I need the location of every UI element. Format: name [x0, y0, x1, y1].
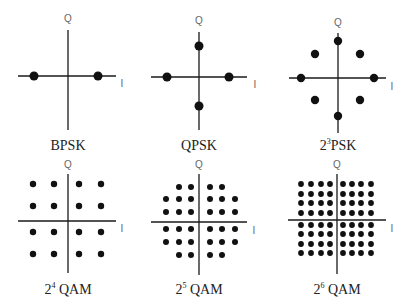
- i-axis-label: I: [121, 223, 124, 234]
- symbol-point: [76, 251, 82, 257]
- symbol-point: [219, 252, 225, 258]
- symbol-point: [176, 226, 182, 232]
- symbol-point: [368, 210, 374, 216]
- symbol-point: [308, 210, 314, 216]
- symbol-point: [188, 226, 194, 232]
- symbol-point: [308, 231, 314, 237]
- symbol-point: [76, 181, 82, 187]
- symbol-point: [327, 210, 333, 216]
- symbol-point: [232, 196, 238, 202]
- symbol-point: [30, 251, 36, 257]
- symbol-point: [176, 196, 182, 202]
- symbol-point: [349, 222, 355, 228]
- symbol-point: [349, 210, 355, 216]
- constellation-caption: QPSK: [181, 138, 217, 153]
- symbol-point: [308, 191, 314, 197]
- symbol-point: [51, 251, 57, 257]
- symbol-point: [368, 222, 374, 228]
- symbol-point: [232, 226, 238, 232]
- constellation-qpsk: QIQPSK: [151, 15, 256, 153]
- constellation-2-qam: QI26 QAM: [288, 159, 393, 297]
- symbol-point: [51, 181, 57, 187]
- symbol-point: [298, 241, 304, 247]
- q-axis-label: Q: [334, 17, 342, 28]
- symbol-point: [163, 239, 169, 245]
- symbol-point: [195, 42, 204, 51]
- symbol-point: [327, 200, 333, 206]
- symbol-point: [207, 252, 213, 258]
- symbol-point: [340, 181, 346, 187]
- symbol-point: [98, 229, 104, 235]
- symbol-point: [94, 72, 103, 81]
- symbol-point: [51, 229, 57, 235]
- constellation-caption: 24 QAM: [44, 281, 92, 297]
- symbol-point: [358, 200, 364, 206]
- symbol-point: [232, 209, 238, 215]
- i-axis-label: I: [253, 225, 256, 236]
- symbol-point: [188, 184, 194, 190]
- symbol-point: [188, 209, 194, 215]
- symbol-point: [297, 74, 305, 82]
- symbol-point: [207, 209, 213, 215]
- symbol-point: [195, 102, 204, 111]
- symbol-point: [358, 241, 364, 247]
- constellation-caption: 26 QAM: [313, 281, 361, 297]
- symbol-point: [163, 226, 169, 232]
- symbol-point: [30, 72, 39, 81]
- symbol-point: [308, 250, 314, 256]
- symbol-point: [349, 181, 355, 187]
- symbol-point: [349, 250, 355, 256]
- symbol-point: [163, 73, 172, 82]
- symbol-point: [30, 229, 36, 235]
- symbol-point: [358, 191, 364, 197]
- symbol-point: [318, 241, 324, 247]
- i-axis-label: I: [121, 78, 124, 89]
- constellation-2-qam: QI25 QAM: [151, 159, 255, 297]
- symbol-point: [232, 239, 238, 245]
- symbol-point: [298, 200, 304, 206]
- symbol-point: [368, 241, 374, 247]
- symbol-point: [298, 250, 304, 256]
- symbol-point: [30, 181, 36, 187]
- symbol-point: [308, 241, 314, 247]
- symbol-point: [188, 252, 194, 258]
- symbol-point: [176, 239, 182, 245]
- symbol-point: [207, 196, 213, 202]
- symbol-point: [340, 250, 346, 256]
- symbol-point: [98, 203, 104, 209]
- symbol-point: [358, 250, 364, 256]
- symbol-point: [327, 250, 333, 256]
- constellation-diagrams: QIBPSKQIQPSKQI23PSKQI24 QAMQI25 QAMQI26 …: [0, 0, 408, 306]
- symbol-point: [298, 181, 304, 187]
- symbol-point: [298, 222, 304, 228]
- constellation-2-qam: QI24 QAM: [18, 159, 123, 297]
- symbol-point: [98, 251, 104, 257]
- symbol-point: [225, 73, 234, 82]
- symbol-point: [370, 74, 378, 82]
- symbol-point: [340, 200, 346, 206]
- symbol-point: [163, 196, 169, 202]
- q-axis-label: Q: [195, 15, 203, 26]
- symbol-point: [349, 200, 355, 206]
- symbol-point: [358, 222, 364, 228]
- symbol-point: [334, 112, 342, 120]
- symbol-point: [188, 196, 194, 202]
- i-axis-label: I: [254, 79, 257, 90]
- symbol-point: [98, 181, 104, 187]
- symbol-point: [340, 191, 346, 197]
- symbol-point: [327, 222, 333, 228]
- symbol-point: [308, 181, 314, 187]
- symbol-point: [308, 200, 314, 206]
- symbol-point: [356, 96, 364, 104]
- symbol-point: [76, 229, 82, 235]
- symbol-point: [356, 50, 364, 58]
- symbol-point: [327, 231, 333, 237]
- symbol-point: [358, 231, 364, 237]
- symbol-point: [340, 231, 346, 237]
- symbol-point: [358, 181, 364, 187]
- constellation-2-psk: QI23PSK: [289, 17, 393, 153]
- symbol-point: [176, 252, 182, 258]
- symbol-point: [340, 241, 346, 247]
- symbol-point: [298, 231, 304, 237]
- symbol-point: [318, 222, 324, 228]
